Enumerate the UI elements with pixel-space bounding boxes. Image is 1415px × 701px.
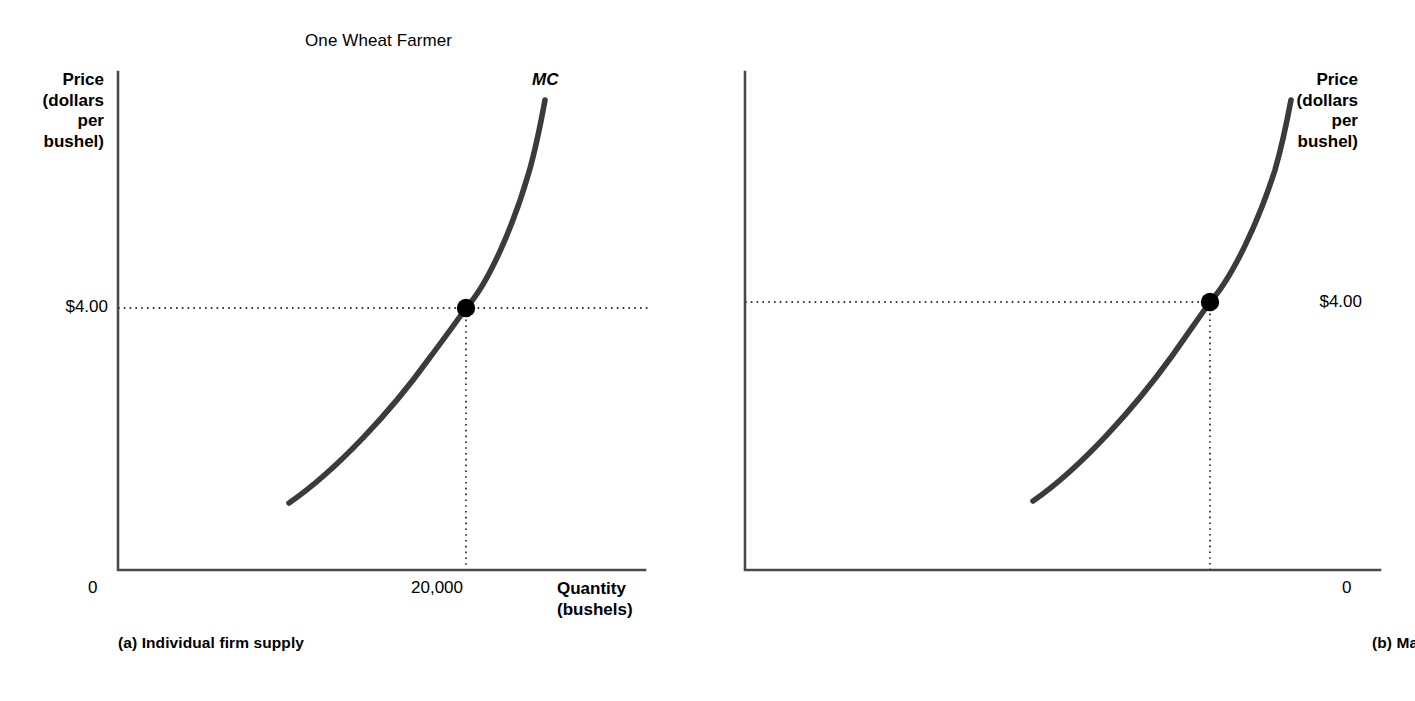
panel-b-origin-label: 0 xyxy=(1342,578,1351,598)
panel-a-price-tick-label: $4.00 xyxy=(8,297,108,317)
panel-market-supply: Wheat Market Price (dollars per bushel) … xyxy=(627,0,1415,701)
panel-a-origin-label: 0 xyxy=(88,578,97,598)
panel-b-y-axis-label: Price (dollars per bushel) xyxy=(1248,70,1358,152)
supply-curves-figure: One Wheat Farmer Price (dollars per bush… xyxy=(0,0,1415,701)
panel-b-caption: (b) Market supply xyxy=(1372,634,1415,652)
marginal-cost-curve-label: MC xyxy=(532,70,558,90)
panel-b-price-tick-label: $4.00 xyxy=(1262,292,1362,312)
panel-a-quantity-tick-label: 20,000 xyxy=(411,578,463,598)
panel-a-title: One Wheat Farmer xyxy=(305,31,452,51)
panel-a-y-axis-label: Price (dollars per bushel) xyxy=(0,70,104,152)
panel-a-caption: (a) Individual firm supply xyxy=(118,634,304,652)
panel-individual-firm-supply: One Wheat Farmer Price (dollars per bush… xyxy=(0,0,700,701)
